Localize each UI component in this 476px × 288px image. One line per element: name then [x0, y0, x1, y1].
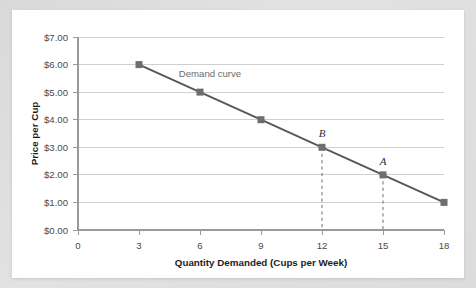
x-axis-title: Quantity Demanded (Cups per Week)	[175, 257, 347, 268]
data-point-marker	[136, 61, 143, 68]
data-point-marker	[197, 89, 204, 96]
x-tick-label-3: 3	[136, 240, 141, 251]
y-axis-title: Price per Cup	[29, 102, 40, 166]
y-tick-label-2: $2.00	[44, 169, 68, 180]
data-point-marker	[441, 199, 448, 206]
x-tick-label-6: 6	[197, 240, 202, 251]
y-tick-label-3: $3.00	[44, 142, 68, 153]
point-label-a: A	[379, 155, 387, 167]
demand-curve-label: Demand curve	[179, 68, 241, 79]
demand-curve-chart: $7.00 $6.00 $5.00 $4.00 $3.00 $2.00 $1.0…	[12, 10, 464, 278]
data-point-marker	[258, 116, 265, 123]
y-tick-label-4: $4.00	[44, 114, 68, 125]
data-point-marker-b	[319, 144, 326, 151]
y-tick-label-5: $5.00	[44, 87, 68, 98]
y-tick-label-7: $7.00	[44, 32, 68, 43]
figure-panel: $7.00 $6.00 $5.00 $4.00 $3.00 $2.00 $1.0…	[12, 10, 464, 278]
x-tick-marks	[78, 230, 444, 235]
x-tick-label-9: 9	[258, 240, 263, 251]
y-tick-label-0: $0.00	[44, 225, 68, 236]
chart-svg: $7.00 $6.00 $5.00 $4.00 $3.00 $2.00 $1.0…	[12, 10, 464, 278]
demand-curve-line	[139, 65, 444, 203]
y-tick-marks	[73, 37, 78, 230]
y-tick-label-1: $1.00	[44, 197, 68, 208]
x-tick-label-15: 15	[378, 240, 389, 251]
x-tick-label-18: 18	[439, 240, 450, 251]
data-point-marker-a	[380, 171, 387, 178]
x-tick-label-0: 0	[75, 240, 80, 251]
y-tick-label-6: $6.00	[44, 59, 68, 70]
point-label-b: B	[319, 127, 326, 139]
x-tick-label-12: 12	[317, 240, 328, 251]
